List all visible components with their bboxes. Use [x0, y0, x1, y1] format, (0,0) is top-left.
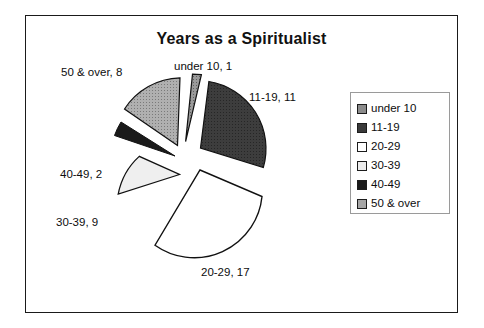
legend-swatch-icon [357, 104, 367, 114]
legend-item-40-49[interactable]: 40-49 [357, 175, 445, 194]
chart-title: Years as a Spiritualist [26, 30, 457, 48]
pie-svg [34, 64, 344, 304]
data-label-20-29: 20-29, 17 [201, 267, 250, 279]
legend-swatch-icon [357, 199, 367, 209]
legend-label: 20-29 [371, 141, 400, 153]
legend-label: 11-19 [371, 122, 400, 134]
legend-label: 50 & over [371, 198, 420, 210]
legend-label: under 10 [371, 103, 416, 115]
legend-item-50-over[interactable]: 50 & over [357, 194, 445, 213]
chart-legend: under 10 11-19 20-29 30-39 40-49 50 & ov… [350, 92, 450, 214]
legend-swatch-icon [357, 123, 367, 133]
legend-label: 30-39 [371, 160, 400, 172]
data-label-11-19: 11-19, 11 [249, 92, 296, 104]
chart-frame: Years as a Spiritualist [25, 15, 458, 313]
pie-slice-20-29[interactable] [155, 170, 262, 258]
legend-label: 40-49 [371, 179, 400, 191]
pie-slice-under-10[interactable] [186, 74, 202, 142]
legend-item-11-19[interactable]: 11-19 [357, 118, 445, 137]
data-label-30-39: 30-39, 9 [56, 217, 98, 229]
data-label-under-10: under 10, 1 [174, 61, 232, 73]
legend-item-30-39[interactable]: 30-39 [357, 156, 445, 175]
legend-item-under-10[interactable]: under 10 [357, 99, 445, 118]
pie-slice-30-39[interactable] [116, 154, 181, 194]
legend-swatch-icon [357, 180, 367, 190]
data-label-50-over: 50 & over, 8 [61, 67, 122, 79]
data-label-40-49: 40-49, 2 [60, 169, 102, 181]
legend-swatch-icon [357, 142, 367, 152]
pie-chart-area: under 10, 1 11-19, 11 20-29, 17 30-39, 9… [34, 64, 344, 304]
legend-item-20-29[interactable]: 20-29 [357, 137, 445, 156]
legend-swatch-icon [357, 161, 367, 171]
